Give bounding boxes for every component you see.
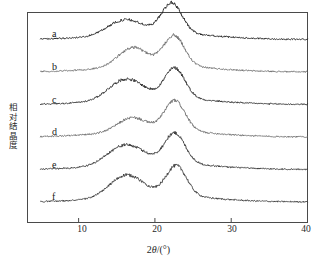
xrd-figure: 相对结晶度 2θ/(°) 10 20 30 40 a b c d e f [0, 0, 317, 266]
figure-background [0, 0, 317, 266]
xrd-plot-svg [0, 0, 317, 266]
